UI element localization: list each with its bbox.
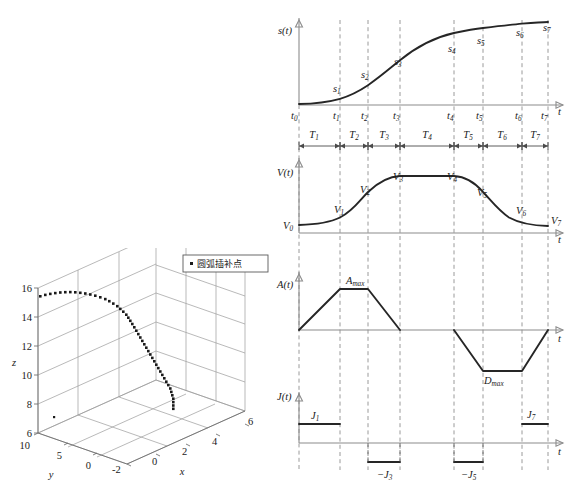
s-sub-3: 3 xyxy=(397,61,402,69)
profiles-panel: s1 s2 s3 s4 s5 s6 s7 s(t) t t0 t1 t2 t3 … xyxy=(270,0,570,494)
svg-text:t2: t2 xyxy=(361,110,368,123)
j7-sub: 7 xyxy=(532,414,536,422)
V-sub-0: 0 xyxy=(289,225,293,233)
s-point-labels: s1 s2 s3 s4 s5 s6 s7 xyxy=(333,22,551,96)
a-axis-label: A(t) xyxy=(276,279,294,291)
svg-text:t1: t1 xyxy=(333,110,340,123)
s-sub-5: 5 xyxy=(481,40,485,48)
svg-text:t3: t3 xyxy=(393,110,400,123)
segment-arrow-head xyxy=(340,144,345,149)
t-sub-0: 0 xyxy=(294,115,298,123)
scatter-point xyxy=(122,310,125,313)
scatter-point xyxy=(49,293,52,296)
scatter-point xyxy=(149,353,152,356)
z-tick-1: 14 xyxy=(22,312,33,323)
T-sub-1: 1 xyxy=(315,134,319,142)
svg-text:V3: V3 xyxy=(393,171,403,184)
z-axis-label: z xyxy=(11,357,16,368)
svg-text:T3: T3 xyxy=(379,129,389,142)
svg-text:t0: t0 xyxy=(291,110,298,123)
plot3d-z-ticks: 16 14 12 10 8 6 z xyxy=(11,283,38,439)
segment-arrow-head xyxy=(522,144,527,149)
svg-text:V7: V7 xyxy=(551,215,561,228)
svg-text:t5: t5 xyxy=(476,110,483,123)
scatter-point xyxy=(151,357,154,360)
scatter-point xyxy=(172,404,175,407)
scatter-point xyxy=(108,300,111,303)
t-sub-3: 3 xyxy=(395,115,400,123)
a-peak-sub: max xyxy=(352,280,365,288)
scatter-point xyxy=(159,370,162,373)
j1-sub: 1 xyxy=(316,415,320,423)
scatter-point xyxy=(131,323,134,326)
scatter-point xyxy=(44,294,47,297)
T-sub-7: 7 xyxy=(536,134,540,142)
t-sub-4: 4 xyxy=(450,115,454,123)
svg-text:V6: V6 xyxy=(516,205,526,218)
t-sub-7: 7 xyxy=(544,115,548,123)
scatter-point xyxy=(135,329,138,332)
svg-text:−J3: −J3 xyxy=(377,469,393,482)
scatter-point xyxy=(165,380,168,383)
segment-arrow-head xyxy=(335,144,340,149)
V-sub-3: 3 xyxy=(398,176,403,184)
scatter-point xyxy=(170,391,173,394)
V-sub-1: 1 xyxy=(340,209,344,217)
T-sub-3: 3 xyxy=(384,134,389,142)
svg-text:s6: s6 xyxy=(516,27,524,40)
scatter-point xyxy=(74,291,77,294)
plot3d-panel: 16 14 12 10 8 6 z 10 5 0 y xyxy=(0,248,275,494)
V-sub-4: 4 xyxy=(453,176,457,184)
y-axis-label: y xyxy=(48,469,54,480)
segment-arrow-head xyxy=(363,144,368,149)
s-sub-7: 7 xyxy=(547,27,551,35)
j-taxis-label: t xyxy=(558,446,562,457)
scatter-point xyxy=(133,326,136,329)
s-taxis-label: t xyxy=(558,106,562,117)
svg-text:T6: T6 xyxy=(497,129,507,142)
segment-arrow-head xyxy=(400,144,405,149)
t-sub-5: 5 xyxy=(479,115,483,123)
segment-arrows xyxy=(299,142,548,150)
scatter-point xyxy=(129,320,132,323)
y-tick-1: 5 xyxy=(57,450,62,461)
z-tick-3: 10 xyxy=(22,370,33,381)
segment-arrow-head xyxy=(449,144,454,149)
svg-text:T7: T7 xyxy=(530,129,540,142)
z-tick-5: 6 xyxy=(27,428,32,439)
T-sub-2: 2 xyxy=(355,134,359,142)
scatter-point xyxy=(167,384,170,387)
plot3d-x-ticks: -2 0 2 4 6 x xyxy=(112,416,253,477)
svg-text:T4: T4 xyxy=(422,129,432,142)
T-sub-5: 5 xyxy=(469,134,473,142)
V-sub-5: 5 xyxy=(483,192,487,200)
scatter-point xyxy=(153,360,156,363)
svg-text:Amax: Amax xyxy=(345,275,365,288)
segment-arrow-head xyxy=(543,144,548,149)
scatter-point xyxy=(59,291,62,294)
scatter-point xyxy=(104,298,107,301)
s-sub-4: 4 xyxy=(452,48,456,56)
svg-text:s3: s3 xyxy=(394,56,402,69)
svg-text:s4: s4 xyxy=(448,43,456,56)
segment-arrow-head xyxy=(483,144,488,149)
scatter-point xyxy=(157,367,160,370)
svg-text:−J5: −J5 xyxy=(461,469,477,482)
x-tick-1: 0 xyxy=(152,456,157,467)
scatter-point xyxy=(99,296,102,299)
scatter-points xyxy=(39,291,175,410)
z-tick-0: 16 xyxy=(22,283,33,294)
scatter-point xyxy=(112,302,115,305)
plot3d-legend: 圆弧插补点 xyxy=(183,255,268,272)
scatter-point xyxy=(79,292,82,295)
panel-j: J1 J7 −J3 −J5 J(t) t xyxy=(277,391,563,482)
d-peak-sub: max xyxy=(492,380,505,388)
scatter-point xyxy=(54,292,57,295)
segment-arrow-head xyxy=(478,144,483,149)
t-sub-1: 1 xyxy=(336,115,340,123)
scatter-point xyxy=(69,291,72,294)
svg-text:V0: V0 xyxy=(283,220,293,233)
scatter-point xyxy=(172,401,175,404)
svg-text:V5: V5 xyxy=(477,187,487,200)
scatter-point xyxy=(161,374,164,377)
